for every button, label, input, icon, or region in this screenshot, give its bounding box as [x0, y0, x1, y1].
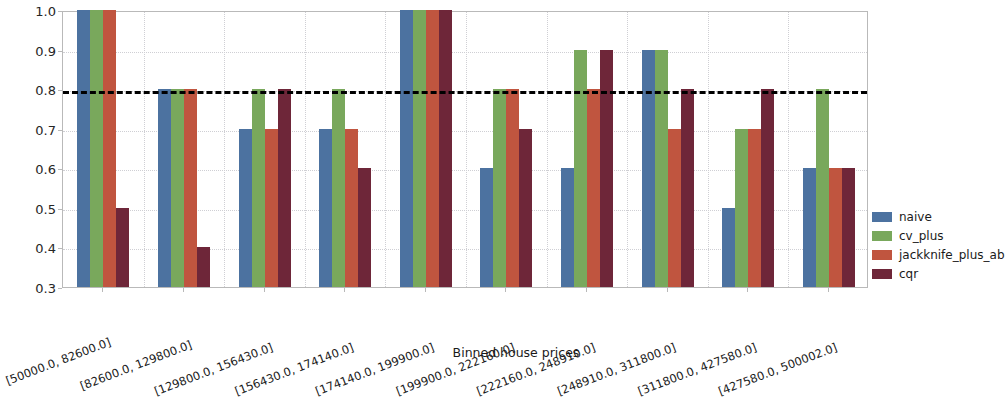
bar-group	[158, 12, 210, 287]
bar-group	[480, 12, 532, 287]
bar-cv_plus	[655, 50, 668, 287]
bar-cqr	[600, 50, 613, 287]
gridline-vertical	[788, 12, 789, 287]
y-axis-tick-mark	[58, 169, 62, 170]
plot-area	[62, 11, 868, 288]
y-axis-tick-label: 0.7	[4, 122, 56, 137]
bar-group	[803, 12, 855, 287]
x-axis-tick-mark	[264, 288, 265, 292]
legend-swatch-icon	[872, 212, 892, 222]
bar-jackknife_plus_ab	[265, 129, 278, 287]
gridline-vertical	[627, 12, 628, 287]
bar-naive	[642, 50, 655, 287]
chart-legend: naivecv_plusjackknife_plus_abcqr	[872, 207, 1005, 283]
gridline-vertical	[224, 12, 225, 287]
y-axis-tick-label: 0.4	[4, 241, 56, 256]
bar-cqr	[519, 129, 532, 287]
legend-item-jackknife_plus_ab[interactable]: jackknife_plus_ab	[872, 245, 1005, 264]
legend-swatch-icon	[872, 231, 892, 241]
gridline-vertical	[385, 12, 386, 287]
bar-naive	[803, 168, 816, 287]
legend-label: jackknife_plus_ab	[899, 249, 1005, 261]
bar-jackknife_plus_ab	[506, 89, 519, 287]
x-axis-tick-mark	[505, 288, 506, 292]
bar-jackknife_plus_ab	[345, 129, 358, 287]
x-axis-tick-mark	[828, 288, 829, 292]
bar-group	[319, 12, 371, 287]
bar-jackknife_plus_ab	[668, 129, 681, 287]
bar-naive	[77, 10, 90, 287]
bar-jackknife_plus_ab	[587, 89, 600, 287]
target-coverage-line	[63, 91, 867, 94]
y-axis-tick-mark	[58, 288, 62, 289]
x-axis-tick-mark	[747, 288, 748, 292]
bar-cv_plus	[332, 89, 345, 287]
bar-cqr	[116, 208, 129, 287]
bar-jackknife_plus_ab	[748, 129, 761, 287]
bar-naive	[158, 89, 171, 287]
x-axis-tick-mark	[102, 288, 103, 292]
y-axis-tick-label: 0.8	[4, 83, 56, 98]
y-axis-tick-label: 0.3	[4, 281, 56, 296]
bar-group	[722, 12, 774, 287]
bar-naive	[561, 168, 574, 287]
y-axis-tick-mark	[58, 11, 62, 12]
bar-group	[400, 12, 452, 287]
bar-cv_plus	[816, 89, 829, 287]
bar-jackknife_plus_ab	[426, 10, 439, 287]
y-axis-tick-label: 0.9	[4, 43, 56, 58]
x-axis-tick-mark	[667, 288, 668, 292]
bar-cv_plus	[413, 10, 426, 287]
y-axis-tick-mark	[58, 248, 62, 249]
gridline-vertical	[547, 12, 548, 287]
bar-cv_plus	[735, 129, 748, 287]
bar-cqr	[761, 89, 774, 287]
bar-naive	[480, 168, 493, 287]
bar-naive	[319, 129, 332, 287]
legend-item-cv_plus[interactable]: cv_plus	[872, 226, 1005, 245]
bar-cqr	[439, 10, 452, 287]
gridline-vertical	[305, 12, 306, 287]
x-axis-tick-mark	[183, 288, 184, 292]
x-axis-tick-mark	[425, 288, 426, 292]
y-axis-tick-label: 1.0	[4, 4, 56, 19]
bar-naive	[239, 129, 252, 287]
bar-cqr	[681, 89, 694, 287]
bar-naive	[722, 208, 735, 287]
y-axis-tick-label: 0.5	[4, 201, 56, 216]
y-axis-tick-mark	[58, 209, 62, 210]
x-axis-tick-mark	[586, 288, 587, 292]
gridline-vertical	[466, 12, 467, 287]
y-axis-tick-label: 0.6	[4, 162, 56, 177]
bar-cqr	[842, 168, 855, 287]
y-axis-tick-mark	[58, 51, 62, 52]
bar-jackknife_plus_ab	[184, 89, 197, 287]
legend-item-naive[interactable]: naive	[872, 207, 1005, 226]
y-axis-tick-mark	[58, 90, 62, 91]
legend-label: cv_plus	[899, 230, 944, 242]
bar-cqr	[358, 168, 371, 287]
bar-cv_plus	[493, 89, 506, 287]
gridline-vertical	[708, 12, 709, 287]
bar-group	[239, 12, 291, 287]
legend-swatch-icon	[872, 250, 892, 260]
x-axis-tick-mark	[344, 288, 345, 292]
legend-label: naive	[899, 211, 932, 223]
bar-group	[642, 12, 694, 287]
bar-group	[77, 12, 129, 287]
bar-cv_plus	[574, 50, 587, 287]
bar-group	[561, 12, 613, 287]
bar-cqr	[197, 247, 210, 287]
bar-cqr	[278, 89, 291, 287]
gridline-vertical	[144, 12, 145, 287]
legend-swatch-icon	[872, 269, 892, 279]
bar-cv_plus	[252, 89, 265, 287]
bar-cv_plus	[90, 10, 103, 287]
bar-cv_plus	[171, 89, 184, 287]
bar-naive	[400, 10, 413, 287]
bar-jackknife_plus_ab	[103, 10, 116, 287]
y-axis-tick-mark	[58, 130, 62, 131]
legend-item-cqr[interactable]: cqr	[872, 264, 1005, 283]
legend-label: cqr	[899, 268, 918, 280]
